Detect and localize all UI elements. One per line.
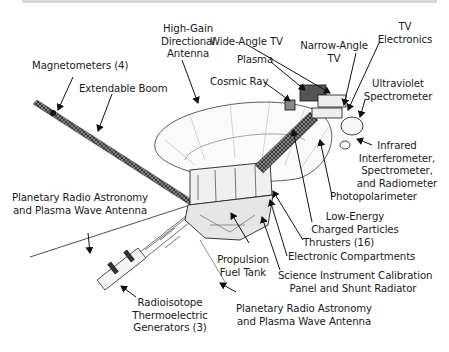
label-extendable-boom: Extendable Boom bbox=[79, 83, 168, 96]
label-pra-antenna-upper: Planetary Radio Astronomy and Plasma Wav… bbox=[10, 192, 150, 217]
label-rtg: Radioisotope Thermoelectric Generators (… bbox=[128, 297, 212, 335]
label-pra-antenna-lower: Planetary Radio Astronomy and Plasma Wav… bbox=[234, 303, 374, 328]
label-photopolarimeter: Photopolarimeter bbox=[330, 191, 417, 204]
label-propulsion-fuel-tank: Propulsion Fuel Tank bbox=[212, 254, 274, 279]
label-ultraviolet-spectrometer: Ultraviolet Spectrometer bbox=[360, 78, 436, 103]
spacecraft-bus bbox=[185, 162, 273, 240]
label-narrow-angle-tv: Narrow-Angle TV bbox=[300, 40, 368, 65]
label-science-calibration-panel: Science Instrument Calibration Panel and… bbox=[278, 270, 428, 295]
label-low-energy-charged-particles: Low-Energy Charged Particles bbox=[310, 211, 400, 236]
label-electronic-compartments: Electronic Compartments bbox=[288, 251, 415, 264]
label-plasma: Plasma bbox=[237, 54, 273, 67]
rtg-cylinders bbox=[97, 248, 146, 290]
label-thrusters: Thrusters (16) bbox=[303, 237, 374, 250]
label-tv-electronics: TV Electronics bbox=[374, 21, 436, 46]
label-wide-angle-tv: Wide-Angle TV bbox=[210, 36, 283, 49]
label-infrared-interferometer: Infrared Interferometer, Spectrometer, a… bbox=[352, 140, 442, 190]
label-cosmic-ray: Cosmic Ray bbox=[210, 76, 268, 89]
label-magnetometers: Magnetometers (4) bbox=[32, 60, 128, 73]
